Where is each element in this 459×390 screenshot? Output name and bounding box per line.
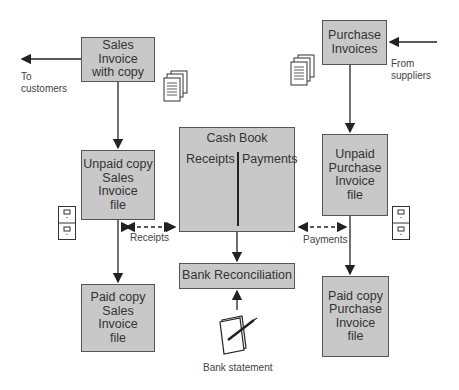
filing-cabinet-icon — [58, 206, 77, 241]
sales-invoice-label: Sales Invoice with copy — [82, 39, 154, 80]
cash-book-divider — [237, 152, 239, 226]
document-stack-icon — [290, 54, 316, 86]
unpaid-purchase-box: Unpaid Purchase Invoice file — [322, 134, 388, 216]
from-suppliers-label: From suppliers — [391, 58, 431, 82]
unpaid-sales-box: Unpaid copy Sales Invoice file — [81, 150, 155, 220]
sales-invoice-box: Sales Invoice with copy — [81, 37, 155, 82]
paid-purchase-label: Paid copy Purchase Invoice file — [328, 290, 383, 344]
notepad-pen-icon — [218, 314, 260, 358]
purchase-invoices-box: Purchase Invoices — [322, 20, 387, 65]
to-customers-label: To customers — [21, 71, 67, 95]
paid-sales-box: Paid copy Sales Invoice file — [81, 284, 155, 352]
bank-statement-label: Bank statement — [203, 362, 272, 374]
receipts-label: Receipts — [130, 232, 169, 244]
cash-book-payments: Payments — [242, 153, 298, 167]
unpaid-sales-label: Unpaid copy Sales Invoice file — [82, 158, 154, 212]
document-stack-icon — [163, 70, 189, 102]
paid-purchase-box: Paid copy Purchase Invoice file — [322, 276, 389, 357]
bank-reconciliation-box: Bank Reconciliation — [179, 263, 295, 289]
filing-cabinet-icon — [392, 206, 411, 241]
bank-reconciliation-label: Bank Reconciliation — [182, 269, 292, 283]
cash-book-receipts: Receipts — [186, 153, 235, 167]
payments-label: Payments — [303, 234, 347, 246]
purchase-invoices-label: Purchase Invoices — [328, 29, 381, 56]
cash-book-box: Cash Book Receipts Payments — [179, 127, 295, 232]
cash-book-title: Cash Book — [180, 132, 294, 146]
paid-sales-label: Paid copy Sales Invoice file — [82, 291, 154, 345]
unpaid-purchase-label: Unpaid Purchase Invoice file — [329, 148, 382, 202]
